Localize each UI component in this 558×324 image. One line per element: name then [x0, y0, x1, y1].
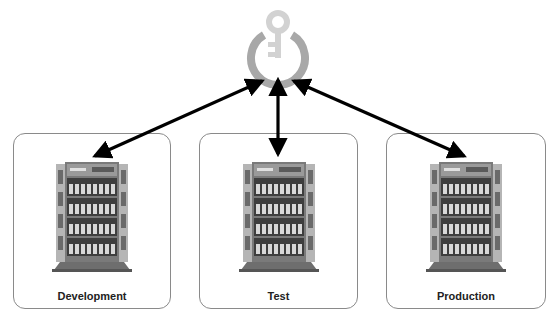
connections-overlay	[0, 0, 558, 324]
arrow-to-production	[294, 81, 464, 156]
key-power-icon	[251, 13, 305, 85]
arrow-to-development	[95, 81, 262, 156]
diagram-canvas: Development Test Production	[0, 0, 558, 324]
